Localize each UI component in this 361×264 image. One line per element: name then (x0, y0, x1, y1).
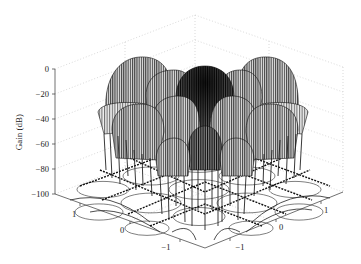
right-floor-tick-0: −1 (235, 242, 244, 252)
left-floor-tick-0: 1 (72, 209, 76, 219)
z-axis-label: Gain (dB) (14, 114, 24, 150)
z-tick-1: −20 (36, 89, 49, 99)
z-axis: 0 −20 −40 −60 −80 −100 Gain (dB) (14, 64, 55, 199)
right-floor-tick-1: 0 (279, 222, 283, 232)
right-floor-tick-2: 1 (324, 205, 328, 215)
z-tick-4: −80 (36, 164, 49, 174)
z-tick-0: 0 (45, 64, 49, 74)
z-tick-2: −40 (36, 114, 49, 124)
left-floor-axis: 1 0 −1 (72, 203, 180, 252)
gain-surface-chart: 0 −20 −40 −60 −80 −100 Gain (dB) 1 0 −1 … (0, 0, 361, 264)
z-tick-5: −100 (31, 189, 49, 199)
z-tick-3: −60 (36, 139, 49, 149)
left-floor-tick-2: −1 (161, 242, 170, 252)
left-floor-tick-1: 0 (120, 225, 124, 235)
